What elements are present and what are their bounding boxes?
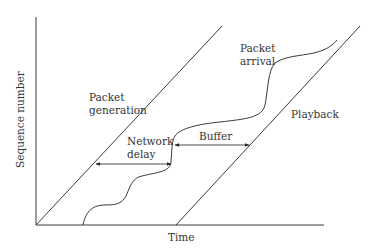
playout-diagram: Packet generation Packet arrival Playbac… (0, 0, 378, 252)
packet-generation-label: Packet generation (89, 91, 147, 116)
network-delay-label: Network delay (127, 135, 177, 160)
y-axis-label: Sequence number (14, 70, 26, 168)
x-axis-label: Time (168, 231, 195, 243)
packet-generation-line (36, 26, 222, 225)
buffer-label: Buffer (199, 130, 233, 142)
playback-label: Playback (291, 108, 339, 120)
packet-arrival-label: Packet arrival (240, 42, 279, 67)
